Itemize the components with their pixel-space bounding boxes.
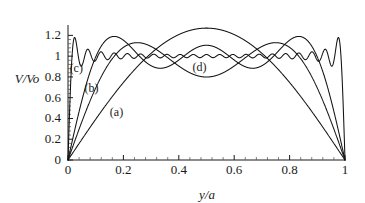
- y-tick-label: 0.4: [45, 110, 62, 125]
- x-tick-label: 1: [342, 162, 349, 177]
- y-axis-tick-labels: 00.20.40.60.811.2: [45, 27, 62, 167]
- series-label-c: (c): [70, 61, 83, 75]
- y-tick-label: 0.2: [45, 131, 61, 146]
- x-axis-ticks: [68, 155, 345, 160]
- series-label-a: (a): [110, 105, 123, 119]
- x-tick-label: 0.8: [281, 162, 297, 177]
- y-tick-label: 0: [55, 152, 62, 167]
- y-axis-title: V/Vo: [15, 71, 40, 86]
- x-axis-title: y/a: [197, 187, 215, 202]
- series-label-b: (b): [85, 81, 99, 95]
- x-tick-label: 0: [65, 162, 72, 177]
- chart-series: [68, 28, 345, 160]
- x-axis-tick-labels: 00.20.40.60.81: [65, 162, 349, 177]
- x-tick-label: 0.4: [171, 162, 188, 177]
- fourier-gibbs-chart: 00.20.40.60.81 00.20.40.60.811.2 (a)(b)(…: [0, 0, 365, 203]
- series-curve-a: [68, 28, 345, 160]
- y-tick-label: 0.8: [45, 69, 61, 84]
- figure-container: 00.20.40.60.81 00.20.40.60.811.2 (a)(b)(…: [0, 0, 365, 203]
- x-tick-label: 0.6: [226, 162, 243, 177]
- y-tick-label: 1: [55, 48, 62, 63]
- y-tick-label: 0.6: [45, 90, 62, 105]
- series-curve-d: [68, 37, 345, 160]
- series-annotations: (a)(b)(c)(d): [70, 60, 207, 119]
- y-tick-label: 1.2: [45, 27, 61, 42]
- x-tick-label: 0.2: [115, 162, 131, 177]
- series-label-d: (d): [193, 60, 207, 74]
